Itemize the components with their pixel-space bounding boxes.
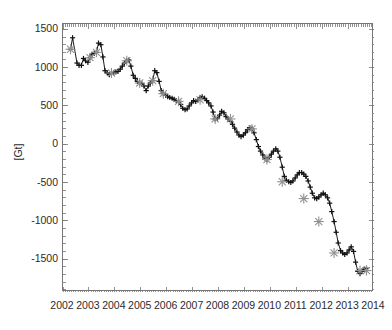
y-tick-label: 1000: [10, 62, 58, 72]
y-tick-label: -1000: [10, 215, 58, 225]
y-tick-label: 500: [10, 100, 58, 110]
x-axis-tick-labels: 2002200320042005200620072008200920102011…: [0, 300, 392, 316]
plot-canvas: [63, 24, 374, 292]
plot-area: [62, 23, 373, 291]
y-tick-label: 1500: [10, 23, 58, 33]
y-tick-label: -1500: [10, 253, 58, 263]
y-tick-label: -500: [10, 177, 58, 187]
y-axis-title: [Gt]: [12, 132, 24, 172]
chart-figure: 150010005000-500-1000-1500 [Gt] 20022003…: [0, 0, 392, 330]
x-tick-label: 2014: [356, 300, 390, 311]
